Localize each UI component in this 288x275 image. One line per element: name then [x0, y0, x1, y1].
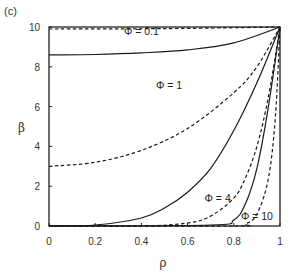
x-tick-label: 0: [46, 236, 52, 247]
y-tick-label: 2: [34, 181, 40, 192]
y-tick-label: 0: [34, 221, 40, 232]
curve-annotation: Φ = 0.1: [124, 25, 159, 37]
curve-annotation: Φ = 4: [205, 192, 231, 204]
y-tick-label: 6: [34, 102, 40, 113]
x-tick-label: 0.8: [227, 236, 241, 247]
series-line: [49, 27, 280, 166]
x-tick-label: 0.4: [134, 236, 148, 247]
y-tick-label: 8: [34, 62, 40, 73]
curves: [49, 27, 280, 226]
y-axis-label: β: [18, 121, 25, 135]
x-tick-label: 0.2: [88, 236, 102, 247]
curve-annotation: Φ = 10: [241, 210, 273, 222]
y-tick-label: 4: [34, 141, 40, 152]
curve-annotation: Φ = 1: [156, 79, 182, 91]
annotations: Φ = 0.1Φ = 1Φ = 4Φ = 10: [124, 25, 273, 222]
line-chart: (c) 00.20.40.60.810246810 Φ = 0.1Φ = 1Φ …: [0, 0, 288, 275]
panel-label: (c): [4, 5, 17, 17]
plot-frame: [49, 27, 280, 226]
x-tick-label: 0.6: [181, 236, 195, 247]
x-axis-label: ρ: [159, 256, 166, 270]
y-tick-label: 10: [29, 22, 41, 33]
series-line: [49, 27, 280, 226]
series-line: [49, 27, 280, 55]
series-line: [49, 27, 280, 226]
x-tick-label: 1: [277, 236, 283, 247]
series-line: [49, 27, 280, 226]
series-line: [49, 27, 280, 226]
